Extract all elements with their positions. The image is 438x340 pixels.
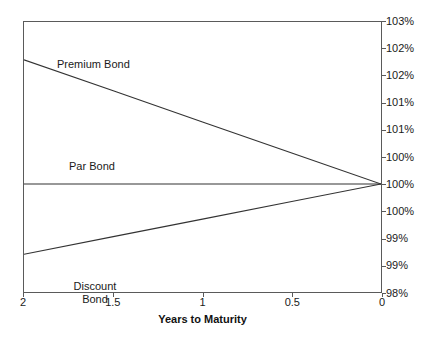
series-annotation-par-bond: Par Bond bbox=[69, 160, 115, 173]
y-axis-tick-label: 100% bbox=[386, 179, 414, 190]
x-axis-tick-label: 0 bbox=[379, 296, 385, 308]
y-axis-labels: 103%102%102%101%101%100%100%100%99%99%98… bbox=[386, 0, 438, 340]
y-axis-tick-label: 102% bbox=[386, 70, 414, 81]
y-axis-tick-label: 99% bbox=[386, 260, 408, 271]
series-annotation-premium-bond: Premium Bond bbox=[57, 58, 130, 71]
y-axis-tick-label: 101% bbox=[386, 124, 414, 135]
series-line-discount-bond bbox=[24, 184, 381, 254]
x-axis-tick-label: 1 bbox=[199, 296, 205, 308]
y-axis-tick-label: 99% bbox=[386, 233, 408, 244]
y-axis-tick-label: 101% bbox=[386, 97, 414, 108]
y-axis-tick-label: 102% bbox=[386, 43, 414, 54]
x-axis-title: Years to Maturity bbox=[0, 313, 405, 325]
plot-area: Premium Bond Par Bond DiscountBond bbox=[23, 21, 382, 293]
x-axis-labels: 21.510.50 bbox=[0, 296, 438, 312]
y-axis-tick-label: 103% bbox=[386, 16, 414, 27]
x-axis-tick-label: 1.5 bbox=[105, 296, 120, 308]
x-axis-tick-label: 2 bbox=[20, 296, 26, 308]
x-axis-tick-label: 0.5 bbox=[285, 296, 300, 308]
bond-price-convergence-chart: Premium Bond Par Bond DiscountBond 103%1… bbox=[0, 0, 438, 340]
series-annotation-discount-bond-line1: Discount bbox=[74, 280, 117, 292]
y-axis-tick-label: 100% bbox=[386, 206, 414, 217]
y-axis-tick-label: 100% bbox=[386, 152, 414, 163]
